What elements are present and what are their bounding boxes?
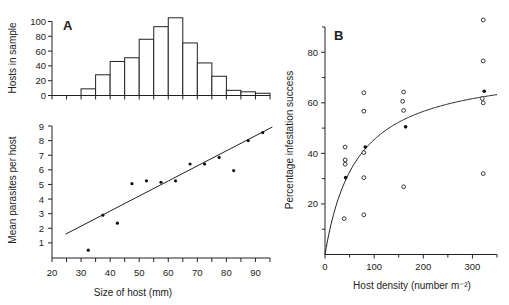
density-y-axis: 20406080 bbox=[307, 27, 325, 255]
scatter-point bbox=[232, 169, 235, 172]
saturating-fit-curve bbox=[325, 95, 497, 255]
open-circle-point bbox=[481, 172, 485, 176]
panel-label-b: B bbox=[334, 28, 343, 43]
scatter-x-tick-label: 30 bbox=[76, 267, 87, 278]
histogram-y-tick-label: 0 bbox=[41, 90, 46, 101]
scatter-x-tick-label: 80 bbox=[221, 267, 232, 278]
scatter-point bbox=[203, 162, 206, 165]
scatter-y-tick-label: 5 bbox=[39, 179, 44, 190]
open-circle-point bbox=[362, 176, 366, 180]
histogram-bar bbox=[241, 92, 256, 96]
histogram-bar bbox=[183, 43, 198, 96]
scatter-y-axis: 123456789 bbox=[39, 121, 52, 259]
filled-circle-point bbox=[344, 176, 348, 180]
histogram-y-tick-label: 100 bbox=[30, 16, 46, 27]
density-y-tick-label: 60 bbox=[307, 97, 318, 108]
open-circle-point bbox=[343, 145, 347, 149]
density-x-tick-label: 0 bbox=[322, 261, 327, 272]
histogram-bar bbox=[168, 18, 183, 96]
density-x-tick-label: 200 bbox=[415, 261, 431, 272]
density-x-tick-label: 100 bbox=[366, 261, 382, 272]
histogram-bar bbox=[110, 61, 125, 95]
density-y-tick-label: 80 bbox=[307, 47, 318, 58]
scatter-x-tick-label: 60 bbox=[163, 267, 174, 278]
scatter-x-axis: 2030405060708090 bbox=[47, 258, 270, 278]
histogram-bar bbox=[197, 63, 212, 96]
filled-circle-point bbox=[404, 125, 408, 129]
density-y-tick-label: 40 bbox=[307, 148, 318, 159]
histogram-bar bbox=[226, 90, 241, 95]
scatter-point bbox=[174, 179, 177, 182]
density-y-axis-title: Percentage infestation success bbox=[284, 71, 295, 209]
scatter-y-tick-label: 6 bbox=[39, 164, 44, 175]
scatter-point bbox=[261, 131, 264, 134]
scatter-points bbox=[87, 131, 265, 252]
scatter-point bbox=[130, 182, 133, 185]
filled-circle-point bbox=[482, 89, 486, 93]
density-y-tick-label: 20 bbox=[307, 198, 318, 209]
scatter-y-tick-label: 1 bbox=[39, 237, 44, 248]
figure: A Hosts in sample 020406080100 Mean para… bbox=[0, 0, 509, 305]
open-circle-point bbox=[342, 217, 346, 221]
open-circle-point bbox=[362, 109, 366, 113]
scatter-y-axis-title: Mean parasites per host bbox=[7, 136, 18, 244]
open-circle-point bbox=[362, 151, 366, 155]
scatter-point bbox=[218, 156, 221, 159]
density-x-axis-title: Host density (number m⁻²) bbox=[353, 280, 471, 291]
histogram-bar bbox=[212, 76, 227, 95]
panel-label-a: A bbox=[63, 18, 73, 33]
histogram-x-axis bbox=[52, 96, 270, 100]
open-circle-point bbox=[481, 59, 485, 63]
scatter-point bbox=[116, 222, 119, 225]
density-panel: B Percentage infestation success Host de… bbox=[284, 18, 497, 291]
scatter-y-tick-label: 9 bbox=[39, 121, 44, 132]
open-circle-point bbox=[402, 90, 406, 94]
histogram-panel: A Hosts in sample 020406080100 bbox=[7, 16, 270, 101]
density-x-tick-label: 300 bbox=[464, 261, 480, 272]
open-circle-point bbox=[402, 109, 406, 113]
histogram-bar bbox=[255, 93, 270, 95]
histogram-y-axis: 020406080100 bbox=[30, 16, 52, 101]
histogram-bar bbox=[81, 89, 96, 96]
scatter-x-tick-label: 20 bbox=[47, 267, 58, 278]
scatter-point bbox=[188, 162, 191, 165]
histogram-y-tick-label: 60 bbox=[35, 46, 46, 57]
scatter-point bbox=[145, 179, 148, 182]
scatter-y-tick-label: 3 bbox=[39, 208, 44, 219]
density-points bbox=[342, 18, 486, 220]
histogram-bars bbox=[81, 18, 270, 96]
scatter-x-tick-label: 50 bbox=[134, 267, 145, 278]
scatter-y-tick-label: 7 bbox=[39, 150, 44, 161]
open-circle-point bbox=[362, 91, 366, 95]
histogram-y-tick-label: 40 bbox=[35, 60, 46, 71]
histogram-bar bbox=[125, 58, 140, 96]
open-circle-point bbox=[343, 158, 347, 162]
scatter-x-axis-title: Size of host (mm) bbox=[94, 287, 172, 298]
open-circle-point bbox=[343, 162, 347, 166]
scatter-y-tick-label: 4 bbox=[39, 194, 44, 205]
histogram-y-tick-label: 20 bbox=[35, 75, 46, 86]
histogram-y-axis-title: Hosts in sample bbox=[7, 22, 18, 94]
scatter-x-tick-label: 70 bbox=[192, 267, 203, 278]
scatter-point bbox=[247, 139, 250, 142]
scatter-y-tick-label: 8 bbox=[39, 135, 44, 146]
open-circle-point bbox=[481, 101, 485, 105]
scatter-x-tick-label: 90 bbox=[250, 267, 261, 278]
histogram-bar bbox=[139, 39, 154, 95]
scatter-point bbox=[87, 249, 90, 252]
open-circle-point bbox=[480, 97, 484, 101]
size-scatter-panel: Mean parasites per host Size of host (mm… bbox=[7, 121, 272, 299]
scatter-x-tick-label: 40 bbox=[105, 267, 116, 278]
regression-line bbox=[66, 127, 273, 234]
scatter-point bbox=[159, 181, 162, 184]
scatter-y-tick-label: 2 bbox=[39, 223, 44, 234]
open-circle-point bbox=[481, 18, 485, 22]
histogram-bar bbox=[154, 27, 169, 96]
scatter-point bbox=[101, 214, 104, 217]
density-x-axis: 0100200300 bbox=[322, 255, 497, 273]
open-circle-point bbox=[401, 99, 405, 103]
histogram-y-tick-label: 80 bbox=[35, 31, 46, 42]
open-circle-point bbox=[402, 185, 406, 189]
histogram-bar bbox=[96, 75, 111, 96]
filled-circle-point bbox=[363, 145, 367, 149]
